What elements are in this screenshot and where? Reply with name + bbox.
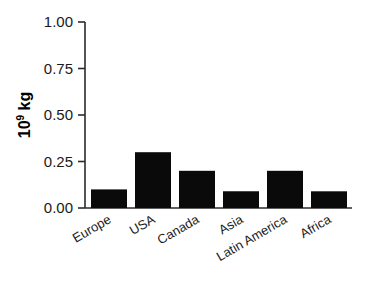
y-axis-title-text: 109 kg	[15, 92, 33, 138]
y-tick-label-0.00: 0.00	[44, 199, 73, 216]
y-tick-label-0.50: 0.50	[44, 106, 73, 123]
chart-background	[0, 0, 370, 296]
bar-latin-america[interactable]	[267, 171, 303, 208]
y-axis-title-unit: kg	[16, 92, 33, 115]
bar-asia[interactable]	[223, 191, 259, 208]
chart-canvas: 1.00 0.75 0.50 0.25 0.00 109 kg Europe	[0, 0, 370, 296]
bar-africa[interactable]	[311, 191, 347, 208]
y-axis-title: 109 kg	[15, 92, 33, 138]
y-tick-label-1.00: 1.00	[44, 13, 73, 30]
y-tick-label-0.75: 0.75	[44, 60, 73, 77]
bar-chart: 1.00 0.75 0.50 0.25 0.00 109 kg Europe	[0, 0, 370, 296]
bar-canada[interactable]	[179, 171, 215, 208]
bar-usa[interactable]	[135, 152, 171, 208]
y-axis-title-base: 10	[16, 120, 33, 138]
y-tick-label-0.25: 0.25	[44, 153, 73, 170]
bar-europe[interactable]	[91, 189, 127, 208]
